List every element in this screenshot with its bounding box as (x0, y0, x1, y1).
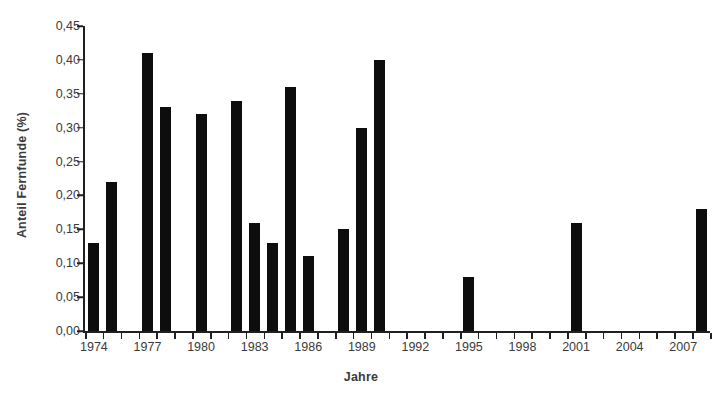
x-tick-label: 1983 (241, 340, 269, 354)
x-tick-label: 1977 (134, 340, 162, 354)
x-tick-label: 1980 (187, 340, 215, 354)
x-tick-label: 2001 (562, 340, 590, 354)
x-tick-label: 2007 (669, 340, 697, 354)
x-tick-label: 1974 (80, 340, 108, 354)
x-tick-label: 1995 (455, 340, 483, 354)
x-tick-label: 1986 (294, 340, 322, 354)
x-axis-tick-labels: 1974197719801983198619891992199519982001… (0, 0, 722, 405)
x-axis-title: Jahre (0, 370, 722, 384)
x-tick-label: 1989 (348, 340, 376, 354)
x-tick-label: 2004 (616, 340, 644, 354)
bar-chart: Anteil Fernfunde (%) 0,000,050,100,150,2… (0, 0, 722, 405)
x-tick-label: 1998 (509, 340, 537, 354)
x-tick-label: 1992 (401, 340, 429, 354)
